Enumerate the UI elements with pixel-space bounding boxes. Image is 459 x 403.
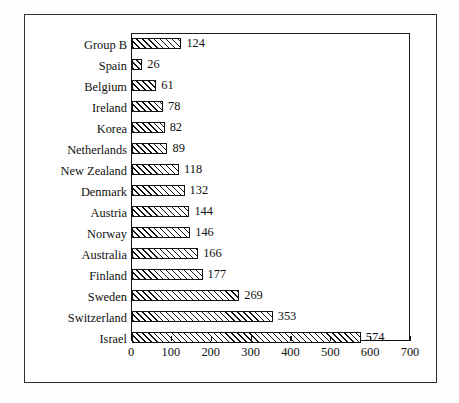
category-label: Denmark	[0, 186, 127, 198]
bar	[132, 164, 179, 175]
bar	[132, 185, 185, 196]
bar-group: 78	[132, 101, 180, 112]
bar-group: 177	[132, 269, 226, 280]
bar-value-label: 353	[278, 311, 297, 322]
category-label: Australia	[0, 249, 127, 261]
bar-row: Austria144	[0, 202, 459, 223]
bar	[132, 122, 165, 133]
bar-group: 146	[132, 227, 214, 238]
category-label: Finland	[0, 270, 127, 282]
x-axis-tick-label: 600	[361, 345, 380, 360]
bar-row: Group B124	[0, 34, 459, 55]
category-label: Austria	[0, 207, 127, 219]
x-axis-tick	[370, 336, 371, 341]
bar-value-label: 26	[147, 59, 159, 70]
bar-group: 353	[132, 311, 296, 322]
category-label: Belgium	[0, 81, 127, 93]
bar-group: 144	[132, 206, 213, 217]
bar-value-label: 146	[195, 227, 214, 238]
bar-group: 89	[132, 143, 185, 154]
x-axis-tick	[211, 336, 212, 341]
bar-row: Norway146	[0, 223, 459, 244]
bar-value-label: 132	[190, 185, 209, 196]
x-axis-tick-label: 0	[128, 345, 134, 360]
category-label: Sweden	[0, 291, 127, 303]
x-axis-tick-label: 200	[201, 345, 220, 360]
bar-row: Switzerland353	[0, 307, 459, 328]
bar-group: 82	[132, 122, 182, 133]
bar-value-label: 144	[194, 206, 213, 217]
x-axis-tick	[290, 336, 291, 341]
bar-row: Spain26	[0, 55, 459, 76]
bar-row: Australia166	[0, 244, 459, 265]
bar-row: Netherlands89	[0, 139, 459, 160]
x-axis: 0100200300400500600700	[131, 341, 411, 371]
bar-group: 26	[132, 59, 160, 70]
bar-group: 132	[132, 185, 208, 196]
bar	[132, 248, 198, 259]
x-axis-tick-label: 300	[241, 345, 260, 360]
bar-row: Sweden269	[0, 286, 459, 307]
bar	[132, 269, 203, 280]
bar	[132, 206, 189, 217]
bar-row: Denmark132	[0, 181, 459, 202]
bar-row: Korea82	[0, 118, 459, 139]
bar-group: 166	[132, 248, 222, 259]
x-axis-tick-label: 100	[162, 345, 181, 360]
bar-row: New Zealand118	[0, 160, 459, 181]
bar-row: Ireland78	[0, 97, 459, 118]
x-axis-tick	[171, 336, 172, 341]
bar-group: 118	[132, 164, 202, 175]
bar	[132, 38, 181, 49]
bar-value-label: 89	[172, 143, 184, 154]
bar-row: Finland177	[0, 265, 459, 286]
category-label: Switzerland	[0, 312, 127, 324]
bar	[132, 143, 167, 154]
category-label: Ireland	[0, 102, 127, 114]
bar-value-label: 269	[244, 290, 263, 301]
bar-rows: Group B124Spain26Belgium61Ireland78Korea…	[0, 34, 459, 349]
bar	[132, 311, 273, 322]
bar-row: Belgium61	[0, 76, 459, 97]
x-axis-tick-label: 400	[281, 345, 300, 360]
category-label: Spain	[0, 60, 127, 72]
bar-group: 61	[132, 80, 174, 91]
bar-value-label: 61	[161, 80, 173, 91]
bar	[132, 80, 156, 91]
category-label: Norway	[0, 228, 127, 240]
bar	[132, 101, 163, 112]
category-label: New Zealand	[0, 165, 127, 177]
x-axis-tick-label: 700	[401, 345, 420, 360]
bar-group: 269	[132, 290, 263, 301]
category-label: Netherlands	[0, 144, 127, 156]
x-axis-tick	[131, 336, 132, 341]
bar	[132, 59, 142, 70]
x-axis-tick-label: 500	[321, 345, 340, 360]
x-axis-tick	[330, 336, 331, 341]
bar-value-label: 124	[186, 38, 205, 49]
category-label: Israel	[0, 333, 127, 345]
bar-value-label: 166	[203, 248, 222, 259]
bar-value-label: 78	[168, 101, 180, 112]
bar	[132, 227, 190, 238]
category-label: Korea	[0, 123, 127, 135]
bar	[132, 290, 239, 301]
x-axis-tick	[410, 336, 411, 341]
chart-page: Group B124Spain26Belgium61Ireland78Korea…	[0, 0, 459, 403]
bar-value-label: 177	[208, 269, 227, 280]
bar-value-label: 118	[184, 164, 202, 175]
bar-group: 124	[132, 38, 205, 49]
x-axis-tick	[251, 336, 252, 341]
category-label: Group B	[0, 39, 127, 51]
bar-value-label: 82	[170, 122, 182, 133]
